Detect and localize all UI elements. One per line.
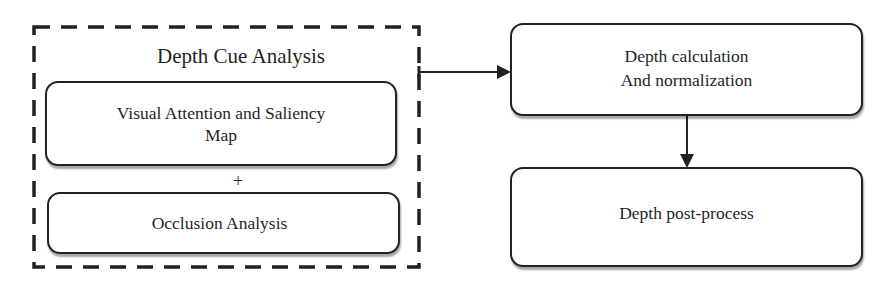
depth-post-process-label: Depth post-process xyxy=(619,201,754,225)
group-title-text: Depth Cue Analysis xyxy=(157,44,325,68)
saliency-map-box: Visual Attention and Saliency Map xyxy=(45,81,397,166)
occlusion-analysis-label: Occlusion Analysis xyxy=(152,211,288,235)
group-title: Depth Cue Analysis xyxy=(141,44,341,68)
depth-calculation-line-2: And normalization xyxy=(621,68,753,92)
occlusion-analysis-box: Occlusion Analysis xyxy=(47,192,400,254)
diagram-canvas: Depth Cue Analysis Visual Attention and … xyxy=(0,0,890,290)
depth-calculation-box: Depth calculation And normalization xyxy=(510,23,863,116)
arrow-depth-calc-to-post-process xyxy=(680,116,694,168)
depth-calculation-line-1: Depth calculation xyxy=(625,44,749,68)
depth-post-process-box: Depth post-process xyxy=(510,167,863,267)
saliency-map-line-1: Visual Attention and Saliency xyxy=(117,101,325,125)
combine-plus: + xyxy=(228,172,248,190)
plus-symbol: + xyxy=(233,171,243,191)
arrow-group-to-depth-calc xyxy=(419,65,511,79)
saliency-map-line-2: Map xyxy=(205,123,237,147)
